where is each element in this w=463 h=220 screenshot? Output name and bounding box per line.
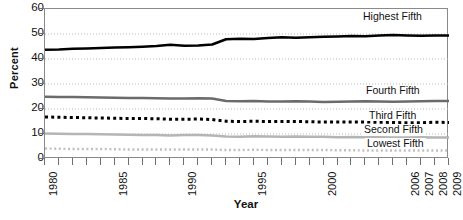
x-tick-label: 1990 xyxy=(187,172,198,196)
series-label-lowest-fifth: Lowest Fifth xyxy=(365,138,426,149)
x-tick-mark xyxy=(420,158,421,165)
x-tick-mark xyxy=(114,158,115,165)
series-label-third-fifth: Third Fifth xyxy=(367,110,418,121)
x-tick-mark xyxy=(44,158,45,165)
series-line-highest-fifth xyxy=(45,35,449,50)
x-tick-mark xyxy=(142,158,143,165)
x-tick-label: 2006 xyxy=(410,172,421,196)
x-tick-mark xyxy=(406,158,407,165)
x-tick-mark xyxy=(86,158,87,165)
x-tick-mark xyxy=(100,158,101,165)
x-tick-label: 1985 xyxy=(118,172,129,196)
x-tick-mark xyxy=(364,158,365,165)
x-tick-label: 1980 xyxy=(48,172,59,196)
footnote-text: ______ ___ _ ____ ___ xyxy=(2,213,222,220)
y-axis: 0102030405060 xyxy=(0,0,44,166)
x-tick-mark xyxy=(72,158,73,165)
x-axis-title: Year xyxy=(44,198,448,210)
x-tick-mark xyxy=(183,158,184,165)
x-tick-mark xyxy=(350,158,351,165)
x-tick-mark xyxy=(197,158,198,165)
x-tick-mark xyxy=(448,158,449,165)
x-tick-mark xyxy=(337,158,338,165)
x-tick-mark xyxy=(392,158,393,165)
x-tick-label: 2007 xyxy=(424,172,435,196)
x-tick-mark xyxy=(211,158,212,165)
x-tick-mark xyxy=(253,158,254,165)
x-tick-mark xyxy=(295,158,296,165)
x-tick-label: 2000 xyxy=(327,172,338,196)
series-label-second-fifth: Second Fifth xyxy=(362,124,425,135)
x-tick-label: 2009 xyxy=(452,172,463,196)
x-tick-mark xyxy=(239,158,240,165)
x-tick-mark xyxy=(169,158,170,165)
x-tick-mark xyxy=(281,158,282,165)
x-axis-ticks xyxy=(44,158,448,166)
x-tick-label: 1995 xyxy=(257,172,268,196)
x-tick-mark xyxy=(155,158,156,165)
x-tick-mark xyxy=(267,158,268,165)
x-tick-mark xyxy=(58,158,59,165)
x-tick-label: 2008 xyxy=(438,172,449,196)
series-label-fourth-fifth: Fourth Fifth xyxy=(364,85,422,96)
x-tick-mark xyxy=(309,158,310,165)
x-tick-mark xyxy=(225,158,226,165)
x-tick-mark xyxy=(378,158,379,165)
x-axis-tick-labels: 198019851990199520002006200720082009 xyxy=(44,166,448,196)
x-tick-mark xyxy=(323,158,324,165)
series-line-fourth-fifth xyxy=(45,97,449,102)
series-label-highest-fifth: Highest Fifth xyxy=(361,11,424,22)
x-tick-mark xyxy=(434,158,435,165)
plot-area xyxy=(44,8,448,158)
x-tick-mark xyxy=(128,158,129,165)
